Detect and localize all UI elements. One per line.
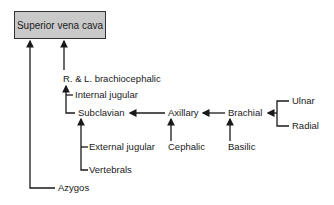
- azygos-label: Azygos: [58, 182, 89, 193]
- internal-jugular-label: Internal jugular: [75, 89, 138, 100]
- vertebrals-label: Vertebrals: [89, 164, 132, 175]
- basilic-label: Basilic: [228, 141, 255, 152]
- superior-vena-cava-label: Superior vena cava: [17, 20, 103, 31]
- external-jugular-label: External jugular: [89, 141, 155, 152]
- axillary-label: Axillary: [168, 107, 199, 118]
- subclavian-label: Subclavian: [78, 107, 124, 118]
- superior-vena-cava-box: Superior vena cava: [14, 11, 106, 39]
- cephalic-label: Cephalic: [168, 141, 205, 152]
- radial-label: Radial: [292, 120, 319, 131]
- ulnar-label: Ulnar: [292, 95, 315, 106]
- brachiocephalic-label: R. & L. brachiocephalic: [63, 73, 161, 84]
- brachial-label: Brachial: [228, 107, 262, 118]
